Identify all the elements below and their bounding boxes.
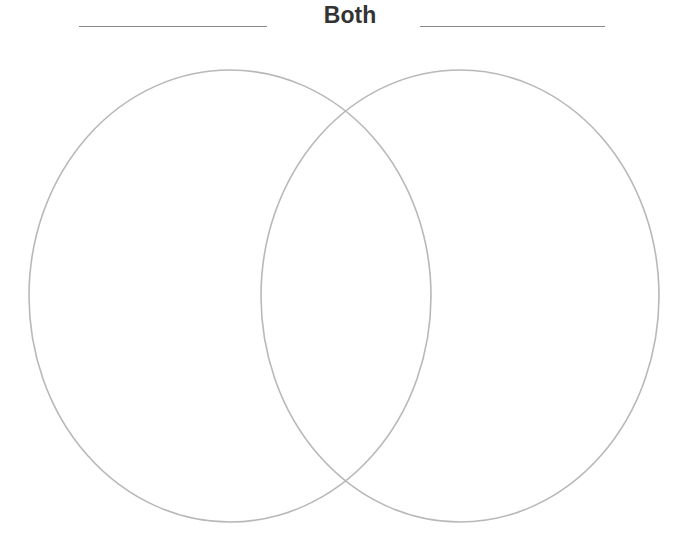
- venn-diagram: [0, 0, 696, 553]
- left-circle: [29, 70, 431, 522]
- right-circle: [261, 70, 659, 522]
